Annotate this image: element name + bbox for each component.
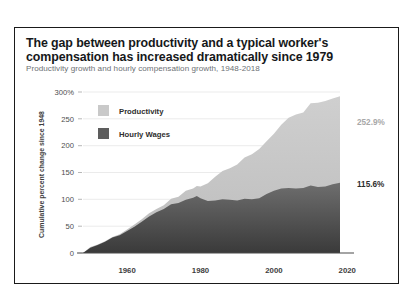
chart-plot-area: 300%2502001501005001960198020002020Cumul…	[14, 27, 399, 284]
y-tick-label-250: 250	[61, 115, 74, 124]
x-tick-label-1980: 1980	[192, 266, 210, 275]
legend-swatch-hourly-wages	[98, 128, 109, 139]
y-axis-title: Cumulative percent change since 1948	[38, 111, 46, 238]
endpoint-label-hourly-wages: 115.6%	[357, 180, 385, 189]
legend-label-productivity: Productivity	[119, 107, 164, 116]
y-tick-label-200: 200	[61, 141, 74, 150]
legend-label-hourly-wages: Hourly Wages	[119, 130, 170, 139]
y-tick-label-0: 0	[70, 249, 74, 258]
endpoint-label-productivity: 252.9%	[357, 118, 385, 127]
legend-swatch-productivity	[98, 105, 109, 116]
y-tick-label-50: 50	[66, 222, 74, 231]
x-tick-label-1960: 1960	[118, 266, 136, 275]
y-tick-label-100: 100	[61, 195, 74, 204]
y-tick-label-300: 300%	[55, 88, 75, 97]
y-tick-label-150: 150	[61, 168, 74, 177]
x-tick-label-2020: 2020	[339, 266, 357, 275]
x-tick-label-2000: 2000	[265, 266, 283, 275]
